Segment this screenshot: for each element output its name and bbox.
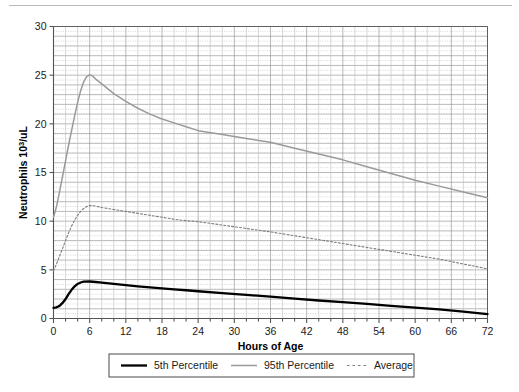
x-axis-title: Hours of Age xyxy=(238,340,304,352)
y-axis-title: Neutrophils 103/uL xyxy=(17,125,30,218)
x-tick-label: 36 xyxy=(265,325,277,337)
x-tick-label: 72 xyxy=(482,325,494,337)
x-tick-label: 60 xyxy=(409,325,421,337)
y-tick-label: 15 xyxy=(35,166,47,178)
y-tick-label: 30 xyxy=(35,20,47,32)
legend-label-2: 95th Percentile xyxy=(264,359,334,371)
y-tick-label: 10 xyxy=(35,215,47,227)
x-tick-label: 24 xyxy=(192,325,204,337)
y-tick-label: 0 xyxy=(41,312,47,324)
y-tick-label: 25 xyxy=(35,69,47,81)
y-tick-label: 20 xyxy=(35,118,47,130)
x-tick-label: 12 xyxy=(120,325,132,337)
x-tick-label: 66 xyxy=(445,325,457,337)
x-tick-label: 30 xyxy=(228,325,240,337)
x-tick-label: 18 xyxy=(156,325,168,337)
legend-label-3: Average xyxy=(374,359,413,371)
x-tick-label: 54 xyxy=(373,325,385,337)
x-tick-label: 0 xyxy=(51,325,57,337)
chart-figure: 051015202530061218243036424854606672Hour… xyxy=(0,0,519,392)
neutrophil-reference-chart: 051015202530061218243036424854606672Hour… xyxy=(0,0,519,392)
y-tick-label: 5 xyxy=(41,264,47,276)
x-tick-label: 42 xyxy=(301,325,313,337)
legend-label-1: 5th Percentile xyxy=(154,359,218,371)
legend: 5th Percentile95th PercentileAverage xyxy=(109,354,414,377)
x-tick-label: 48 xyxy=(337,325,349,337)
x-tick-label: 6 xyxy=(87,325,93,337)
